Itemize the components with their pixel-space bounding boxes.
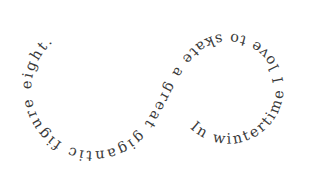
figure-eight-svg: In wintertime I love to skate a great gi… [0, 0, 316, 178]
text-on-path: In wintertime I love to skate a great gi… [18, 30, 287, 164]
figure-eight-text-art: In wintertime I love to skate a great gi… [0, 0, 316, 178]
figure-eight-text: In wintertime I love to skate a great gi… [18, 30, 287, 164]
